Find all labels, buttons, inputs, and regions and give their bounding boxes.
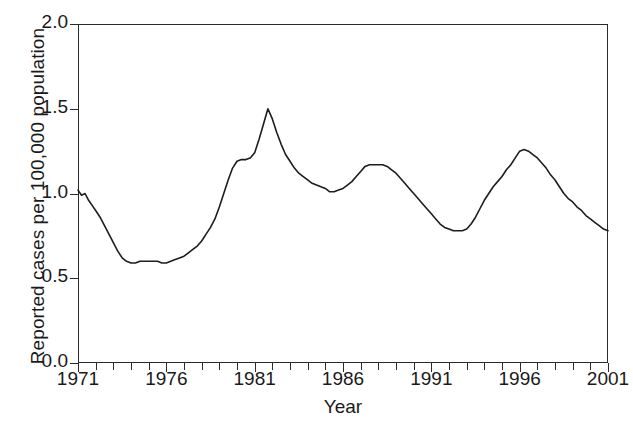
y-axis-tick-mark bbox=[70, 24, 78, 25]
x-axis-tick-mark-minor bbox=[502, 363, 503, 370]
x-axis-tick-mark-minor bbox=[96, 363, 97, 370]
x-axis-tick-label: 1996 bbox=[480, 368, 560, 390]
y-axis-tick-label: 2.0 bbox=[6, 11, 68, 33]
x-axis-tick-mark-minor bbox=[272, 363, 273, 370]
x-axis-tick-mark-minor bbox=[555, 363, 556, 370]
data-series-layer bbox=[78, 24, 608, 363]
x-axis-tick-mark-minor bbox=[184, 363, 185, 370]
x-axis-tick-mark-minor bbox=[449, 363, 450, 370]
x-axis-tick-mark-minor bbox=[573, 363, 574, 370]
x-axis-tick-label: 1971 bbox=[38, 368, 118, 390]
x-axis-tick-mark-minor bbox=[219, 363, 220, 370]
x-axis-tick-mark-minor bbox=[378, 363, 379, 370]
y-axis-tick-mark bbox=[70, 109, 78, 110]
y-axis-tick-labels: 0.00.51.01.52.0 bbox=[0, 0, 68, 424]
x-axis-tick-label: 1976 bbox=[126, 368, 206, 390]
x-axis-tick-mark-minor bbox=[325, 363, 326, 370]
line-chart-figure: Reported cases per 100,000 population 0.… bbox=[0, 0, 633, 424]
x-axis-tick-label: 2001 bbox=[568, 368, 633, 390]
x-axis-title: Year bbox=[78, 396, 608, 418]
x-axis-tick-label: 1981 bbox=[215, 368, 295, 390]
y-axis-tick-mark bbox=[70, 363, 78, 364]
y-axis-tick-label: 1.0 bbox=[6, 181, 68, 203]
x-axis-tick-mark-minor bbox=[590, 363, 591, 370]
x-axis-tick-mark-minor bbox=[484, 363, 485, 370]
y-axis-tick-mark bbox=[70, 194, 78, 195]
x-axis-tick-mark-minor bbox=[537, 363, 538, 370]
x-axis-tick-label: 1986 bbox=[303, 368, 383, 390]
y-axis-tick-label: 0.5 bbox=[6, 265, 68, 287]
y-axis-tick-mark bbox=[70, 278, 78, 279]
x-axis-tick-mark-minor bbox=[361, 363, 362, 370]
x-axis-tick-mark-minor bbox=[131, 363, 132, 370]
x-axis-tick-mark-minor bbox=[237, 363, 238, 370]
x-axis-tick-mark-minor bbox=[290, 363, 291, 370]
y-axis-tick-label: 1.5 bbox=[6, 96, 68, 118]
x-axis-tick-mark-minor bbox=[414, 363, 415, 370]
x-axis-tick-label: 1991 bbox=[391, 368, 471, 390]
x-axis-tick-mark-minor bbox=[467, 363, 468, 370]
series-line-reported-cases bbox=[78, 109, 608, 263]
x-axis-tick-mark-minor bbox=[396, 363, 397, 370]
x-axis-tick-mark-minor bbox=[308, 363, 309, 370]
x-axis-tick-mark-minor bbox=[202, 363, 203, 370]
x-axis-tick-mark-minor bbox=[149, 363, 150, 370]
x-axis-tick-mark-minor bbox=[113, 363, 114, 370]
